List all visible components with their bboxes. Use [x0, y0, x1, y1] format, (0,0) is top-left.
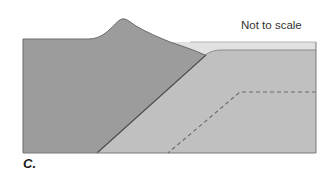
- panel-label: C.: [23, 156, 36, 171]
- not-to-scale-note: Not to scale: [241, 19, 302, 31]
